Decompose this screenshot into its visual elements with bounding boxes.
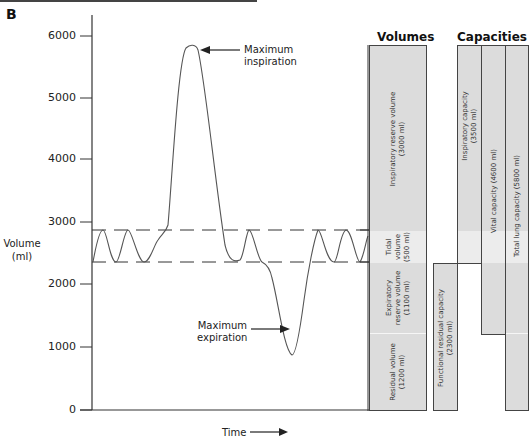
max-expiration-label: Maximum expiration	[197, 320, 247, 344]
irv-label: Inspiratory reserve volume (3000 ml)	[389, 92, 407, 186]
ic-label: Inspiratory capacity (3500 ml)	[461, 91, 479, 161]
tlc-divider	[506, 333, 528, 334]
rv-value: (1200 ml)	[398, 343, 407, 401]
tidal-volume-label: Tidal volume (500 ml)	[385, 232, 412, 262]
frc-bar: Functional residual capacity (2300 ml)	[433, 263, 458, 411]
ic-name: Inspiratory capacity	[461, 91, 470, 161]
erv-label: Expiratory reserve volume (1100 ml)	[385, 271, 412, 325]
tlc-label: Total lung capacity (5800 ml)	[513, 155, 522, 257]
irv-name: Inspiratory reserve volume	[389, 92, 398, 186]
frc-label: Functional residual capacity (2300 ml)	[437, 289, 455, 387]
y-tick-0: 0	[26, 403, 76, 416]
erv-segment: Expiratory reserve volume (1100 ml)	[370, 263, 426, 333]
vc-label: Vital capacity (4600 ml)	[490, 149, 499, 233]
rv-segment: Residual volume (1200 ml)	[370, 334, 426, 410]
max-inspiration-line2: inspiration	[244, 56, 297, 68]
erv-line2: reserve volume	[394, 271, 403, 325]
y-axis-label-line1: Volume	[2, 237, 42, 250]
rv-label: Residual volume (1200 ml)	[389, 343, 407, 401]
y-tick-6000: 6000	[26, 29, 76, 42]
x-axis-label: Time	[222, 427, 246, 437]
tidal-line2: volume	[394, 232, 403, 262]
vc-name: Vital capacity (4600 ml)	[490, 149, 499, 233]
vc-bar: Vital capacity (4600 ml)	[481, 45, 506, 335]
ic-value: (3500 ml)	[470, 91, 479, 161]
max-inspiration-line1: Maximum	[244, 44, 297, 56]
y-tick-1000: 1000	[26, 340, 76, 353]
y-axis-label: Volume (ml)	[2, 237, 42, 263]
ic-tidal-band	[458, 231, 481, 263]
irv-segment: Inspiratory reserve volume (3000 ml)	[370, 46, 426, 231]
tidal-volume-segment: Tidal volume (500 ml)	[370, 231, 426, 263]
max-expiration-line1: Maximum	[197, 320, 247, 332]
y-tick-5000: 5000	[26, 91, 76, 104]
max-expiration-line2: expiration	[197, 332, 247, 344]
rv-name: Residual volume	[389, 343, 398, 401]
erv-value: (1100 ml)	[403, 271, 412, 325]
tidal-line1: Tidal	[385, 232, 394, 262]
frc-value: (2300 ml)	[446, 289, 455, 387]
capacities-heading: Capacities	[457, 30, 527, 44]
irv-value: (3000 ml)	[398, 92, 407, 186]
tlc-bar: Total lung capacity (5800 ml)	[505, 45, 529, 411]
tidal-value: (500 ml)	[403, 232, 412, 262]
y-tick-3000: 3000	[26, 215, 76, 228]
y-tick-4000: 4000	[26, 152, 76, 165]
tlc-name: Total lung capacity (5800 ml)	[513, 155, 522, 257]
ic-bar: Inspiratory capacity (3500 ml)	[457, 45, 482, 264]
y-axis-label-line2: (ml)	[2, 250, 42, 263]
frc-name: Functional residual capacity	[437, 289, 446, 387]
erv-line1: Expiratory	[385, 271, 394, 325]
volumes-bar: Inspiratory reserve volume (3000 ml) Tid…	[369, 45, 427, 411]
y-tick-2000: 2000	[26, 277, 76, 290]
max-inspiration-label: Maximum inspiration	[244, 44, 297, 68]
volumes-heading: Volumes	[377, 30, 434, 44]
vc-tidal-band	[482, 231, 505, 263]
